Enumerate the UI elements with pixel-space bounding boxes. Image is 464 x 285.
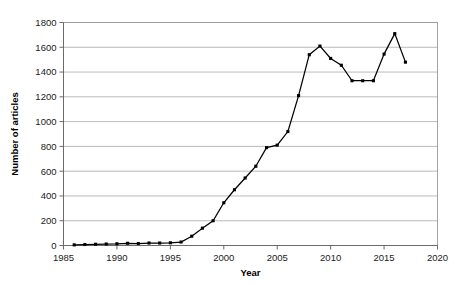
gridlines [64,23,438,221]
data-point-marker [126,242,129,245]
data-point-marker [297,94,300,97]
y-tick-label: 1000 [35,116,56,127]
y-tick-label: 800 [41,141,57,152]
data-point-marker [190,235,193,238]
data-point-marker [276,144,279,147]
data-point-marker [254,165,257,168]
x-tick-label: 2020 [427,252,448,263]
x-axis-ticks: 19851990199520002005201020152020 [53,246,448,263]
data-point-marker [222,201,225,204]
data-point-marker [329,57,332,60]
plot-area-border [64,23,438,246]
data-point-marker [115,242,118,245]
data-point-marker [94,243,97,246]
data-point-marker [372,79,375,82]
y-tick-label: 1600 [35,42,56,53]
data-point-marker [350,79,353,82]
data-point-marker [244,176,247,179]
data-point-marker [73,243,76,246]
y-tick-label: 0 [51,240,56,251]
y-tick-label: 1200 [35,91,56,102]
x-tick-label: 2005 [267,252,288,263]
data-point-marker [212,219,215,222]
data-point-marker [201,227,204,230]
data-point-marker [137,242,140,245]
data-point-marker [318,44,321,47]
x-tick-label: 2010 [320,252,341,263]
y-tick-label: 600 [41,166,57,177]
y-axis-title: Number of articles [9,92,20,175]
data-point-marker [340,64,343,67]
data-point-marker [158,241,161,244]
data-point-marker [383,53,386,56]
data-point-marker [361,79,364,82]
data-point-marker [308,53,311,56]
data-point-marker [233,188,236,191]
x-axis-title: Year [240,267,260,278]
y-tick-label: 1800 [35,17,56,28]
data-point-marker [393,32,396,35]
series-markers [73,32,407,246]
chart-container: 0200400600800100012001400160018001985199… [0,0,464,285]
x-tick-label: 1995 [160,252,181,263]
x-tick-label: 2000 [213,252,234,263]
line-chart: 0200400600800100012001400160018001985199… [0,0,464,285]
x-tick-label: 1990 [106,252,127,263]
data-point-marker [404,61,407,64]
data-point-marker [105,242,108,245]
data-point-marker [286,130,289,133]
y-tick-label: 200 [41,215,57,226]
data-point-marker [179,240,182,243]
data-point-marker [147,241,150,244]
y-tick-label: 400 [41,190,57,201]
data-point-marker [265,146,268,149]
data-point-marker [83,243,86,246]
y-axis-ticks: 020040060080010001200140016001800 [35,17,63,251]
x-tick-label: 2015 [374,252,395,263]
data-point-marker [169,241,172,244]
x-tick-label: 1985 [53,252,74,263]
y-tick-label: 1400 [35,66,56,77]
series-line [74,34,405,245]
